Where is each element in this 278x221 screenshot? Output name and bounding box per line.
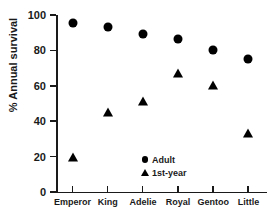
y-tick: 60 xyxy=(50,85,56,87)
x-tick xyxy=(247,186,249,192)
y-axis-line xyxy=(56,15,58,193)
x-tick-label-emperor: Emperor xyxy=(54,197,91,207)
x-tick xyxy=(212,186,214,192)
y-tick-label: 40 xyxy=(34,115,46,127)
y-tick: 100 xyxy=(50,14,56,16)
y-tick-label: 60 xyxy=(34,80,46,92)
x-tick-label-adelie: Adelie xyxy=(129,197,156,207)
data-point-1st-year-king xyxy=(103,108,113,117)
x-tick-label-royal: Royal xyxy=(166,197,191,207)
y-axis-title: % Annual survival xyxy=(7,5,19,125)
legend-item-first-year: 1st-year xyxy=(138,166,187,179)
legend: Adult 1st-year xyxy=(138,153,187,179)
data-point-1st-year-emperor xyxy=(68,153,78,162)
survival-scatter-chart: % Annual survival 020406080100 EmperorKi… xyxy=(0,0,278,221)
data-point-1st-year-little xyxy=(243,128,253,137)
x-tick xyxy=(72,186,74,192)
data-point-adult-royal xyxy=(174,34,183,43)
data-point-1st-year-gentoo xyxy=(208,80,218,89)
data-point-adult-king xyxy=(103,22,112,31)
x-tick-label-king: King xyxy=(98,197,118,207)
x-tick-label-little: Little xyxy=(238,197,260,207)
adult-circle-icon xyxy=(138,156,152,163)
y-tick-label: 100 xyxy=(28,9,46,21)
x-axis-line xyxy=(56,192,267,194)
data-point-adult-gentoo xyxy=(209,46,218,55)
y-tick: 40 xyxy=(50,120,56,122)
y-tick: 0 xyxy=(50,191,56,193)
data-point-adult-emperor xyxy=(68,18,77,27)
legend-label-first-year: 1st-year xyxy=(152,168,187,178)
x-tick xyxy=(142,186,144,192)
y-tick: 80 xyxy=(50,50,56,52)
x-tick xyxy=(107,186,109,192)
x-tick-label-gentoo: Gentoo xyxy=(198,197,230,207)
y-tick-label: 80 xyxy=(34,44,46,56)
data-point-1st-year-royal xyxy=(173,68,183,77)
x-tick xyxy=(177,186,179,192)
legend-label-adult: Adult xyxy=(152,155,175,165)
y-tick-label: 20 xyxy=(34,151,46,163)
data-point-adult-little xyxy=(244,55,253,64)
y-tick-label: 0 xyxy=(40,186,46,198)
y-tick: 20 xyxy=(50,156,56,158)
first-year-triangle-icon xyxy=(138,169,152,176)
data-point-adult-adelie xyxy=(138,30,147,39)
data-point-1st-year-adelie xyxy=(138,96,148,105)
legend-item-adult: Adult xyxy=(138,153,187,166)
